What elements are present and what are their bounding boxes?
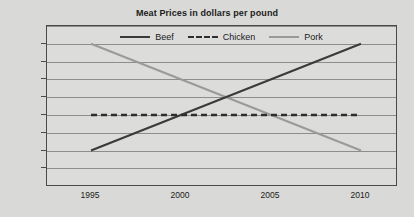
chart-legend: Beef Chicken Pork [46,30,397,44]
x-axis-label-2005: 2005 [261,190,280,200]
legend-label-pork: Pork [304,32,323,42]
legend-label-chicken: Chicken [223,32,256,42]
x-axis-label-1995: 1995 [81,190,100,200]
plot-area [46,25,397,186]
legend-item-beef: Beef [120,32,174,42]
legend-swatch-chicken-icon [188,36,218,38]
x-axis-label-2000: 2000 [171,190,190,200]
legend-label-beef: Beef [155,32,174,42]
chart-container: Meat Prices in dollars per pound Beef Ch… [0,0,414,217]
x-axis-label-2010: 2010 [351,190,370,200]
legend-swatch-beef-icon [120,36,150,38]
legend-swatch-pork-icon [269,36,299,38]
series-layer [47,26,398,187]
legend-item-pork: Pork [269,32,323,42]
chart-title: Meat Prices in dollars per pound [0,8,414,18]
legend-item-chicken: Chicken [188,32,256,42]
